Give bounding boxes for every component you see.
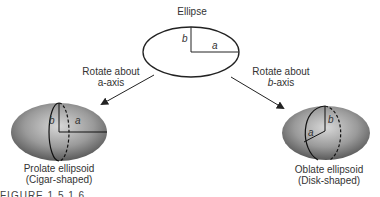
ellipse-b-label: b <box>182 33 188 44</box>
oblate-a-label: a <box>308 127 314 138</box>
right-arrow-label: Rotate about b-axis <box>248 66 314 88</box>
oblate-b-label: b <box>328 114 334 125</box>
figure-caption-fragment: FIGURE 1.5 1.6 <box>0 190 85 197</box>
ellipse-a-label: a <box>212 40 218 51</box>
prolate-a-label: a <box>75 115 81 126</box>
left-arrow-label: Rotate about a-axis <box>78 66 144 88</box>
oblate-ellipsoid <box>282 106 370 160</box>
ellipse-title: Ellipse <box>172 6 212 17</box>
oblate-caption: Oblate ellipsoid (Disk-shaped) <box>284 164 374 186</box>
prolate-ellipsoid <box>11 103 107 161</box>
prolate-b-label: b <box>49 115 55 126</box>
prolate-caption: Prolate ellipsoid (Cigar-shaped) <box>14 163 104 185</box>
ellipse-2d <box>143 27 239 77</box>
